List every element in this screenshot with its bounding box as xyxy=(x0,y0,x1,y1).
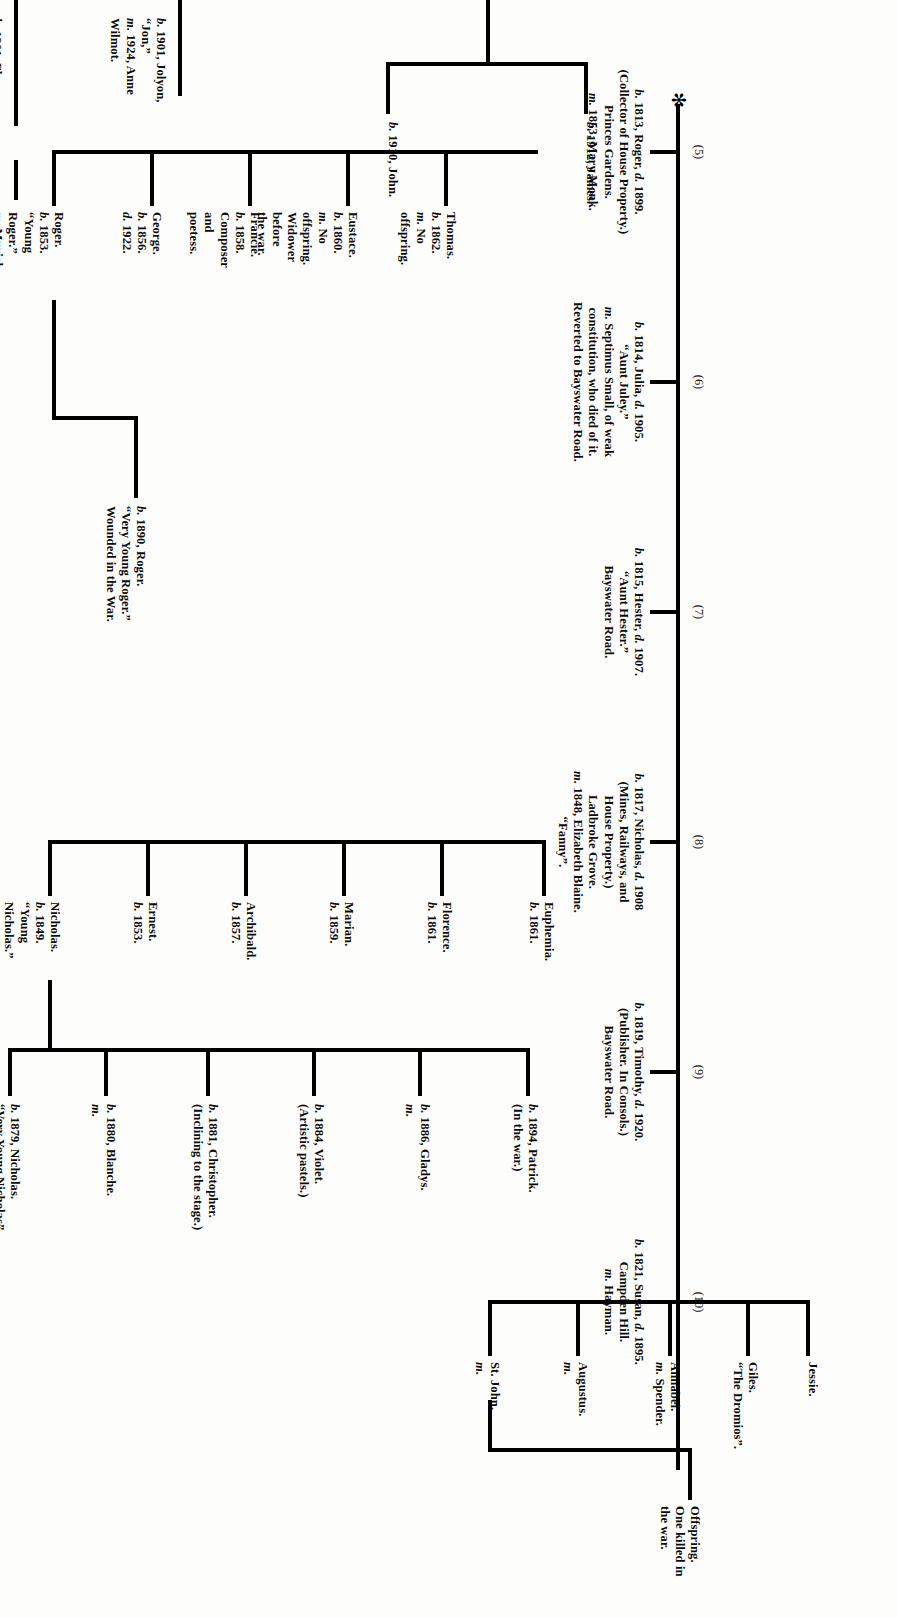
person-roger-young: Roger.b. 1853.“YoungRoger.”m. MurielWake… xyxy=(0,212,66,266)
person-susan-offspring: Offspring.One killed inthe war. xyxy=(656,1506,702,1577)
young-nicholas-sibling-bar xyxy=(8,1048,530,1052)
roger-child-stub-4 xyxy=(346,150,350,206)
john-stub xyxy=(386,62,390,114)
person-john-1910: b. 1910, John. xyxy=(385,122,400,197)
person-julia-6: b. 1814, Julia, d. 1905.“Aunt Juley.”m. … xyxy=(570,302,646,462)
person-hester-7: b. 1815, Hester, d. 1907.“Aunt Hester.”B… xyxy=(600,548,646,676)
person-florence: Florence.b. 1861. xyxy=(424,902,454,953)
st-john-link-h2 xyxy=(688,1448,692,1500)
person-jon-jolyon: b. 1901, Jolyon,“Jon,”m. 1924, AnneWilmo… xyxy=(107,18,168,103)
genealogy-sheet: ✻ (5) (6) (7) (8) (9) (10) b. 1813, Roge… xyxy=(0,0,898,1618)
main-trunk-line xyxy=(676,104,680,1470)
nicholas-child-stub-4 xyxy=(342,840,346,896)
nicholas-child-stub-2 xyxy=(146,840,150,896)
susan-child-stub-2 xyxy=(576,1300,580,1356)
person-eustace: Eustace.b. 1860.m. Nooffspring.Widowerbe… xyxy=(254,212,360,265)
nicholas-child-stub-1 xyxy=(48,840,52,896)
young-roger-link-h2 xyxy=(134,416,138,498)
nicholas-child-stub-6 xyxy=(542,840,546,896)
trunk-start-marker: ✻ xyxy=(669,92,688,108)
roger-child-stub-1 xyxy=(52,150,56,206)
person-jessie: Jessie. xyxy=(805,1362,820,1397)
person-very-young-nicholas: b. 1879, Nicholas.“Very Young Nicholas”(… xyxy=(0,1104,22,1230)
trunk-stub-gen8 xyxy=(650,840,680,844)
rotated-chart-canvas: ✻ (5) (6) (7) (8) (9) (10) b. 1813, Roge… xyxy=(0,0,898,1618)
nicholas-sibling-bar xyxy=(50,840,546,844)
person-fleur: b. 1901, Fleur.m. 1920, Michael Mont. xyxy=(0,18,4,147)
susan-child-stub-4 xyxy=(746,1300,750,1356)
yn-child-stub-5 xyxy=(418,1048,422,1096)
person-augustus: Augustus.m. xyxy=(560,1362,590,1416)
st-john-link-v xyxy=(488,1448,692,1452)
yn-child-stub-6 xyxy=(526,1048,530,1096)
person-francie: Francie.b. 1858.Composerandpoetess. xyxy=(186,212,262,268)
yn-child-stub-2 xyxy=(104,1048,108,1096)
person-giles: Giles.“The Dromios”. xyxy=(730,1362,760,1449)
person-marian: Marian.b. 1859. xyxy=(326,902,356,946)
generation-label-7: (7) xyxy=(691,605,706,619)
young-roger-link-v xyxy=(52,416,138,420)
young-roger-link-h1 xyxy=(52,300,56,420)
person-gladys: b. 1886, Gladys.m. xyxy=(402,1104,432,1191)
offpage-stub-fleur xyxy=(14,0,18,126)
johnjames-feed-line xyxy=(486,0,490,66)
person-st-john: St. John.m. xyxy=(472,1362,502,1410)
young-nicholas-link-h xyxy=(48,980,52,1052)
fleur-kit-link xyxy=(14,160,18,200)
generation-label-9: (9) xyxy=(691,1065,706,1079)
person-george: George.b. 1856.d. 1922. xyxy=(118,212,164,255)
roger-child-stub-3 xyxy=(248,150,252,206)
person-euphemia: Euphemia.b. 1861. xyxy=(526,902,556,961)
person-christopher-1881: b. 1881, Christopher.(Inclining to the s… xyxy=(190,1104,220,1230)
roger-descend-line xyxy=(448,150,538,154)
generation-label-5: (5) xyxy=(691,145,706,159)
person-timothy-9: b. 1819, Timothy, d. 1920.(Publisher. In… xyxy=(600,1003,646,1142)
roger-child-stub-2 xyxy=(150,150,154,206)
person-nicholas-young: Nicholas.b. 1849.“YoungNicholas.”(Insura… xyxy=(0,902,62,970)
susan-child-stub-5 xyxy=(806,1300,810,1356)
person-annabel: Annabel.m. Spender. xyxy=(652,1362,682,1426)
person-blanche: b. 1880, Blanche.m. xyxy=(88,1104,118,1196)
trunk-stub-gen7 xyxy=(650,610,680,614)
susan-child-stub-3 xyxy=(668,1300,672,1356)
person-patrick: b. 1894, Patrick.(In the war.) xyxy=(510,1104,540,1193)
james-stub xyxy=(584,62,588,114)
nicholas-child-stub-3 xyxy=(244,840,248,896)
person-archibald: Archibald.b. 1857. xyxy=(228,902,258,961)
generation-label-8: (8) xyxy=(691,835,706,849)
offpage-stub-jolyon xyxy=(178,0,182,96)
trunk-stub-gen5 xyxy=(650,150,680,154)
nicholas-child-stub-5 xyxy=(440,840,444,896)
person-james-1912: b. 1912, James. xyxy=(583,122,598,204)
yn-child-stub-1 xyxy=(8,1048,12,1096)
johnjames-sibling-bar xyxy=(386,62,588,66)
person-very-young-roger: b. 1890, Roger.“Very Young Roger.”Wounde… xyxy=(102,506,148,622)
trunk-stub-gen6 xyxy=(650,380,680,384)
person-violet: b. 1884, Violet.(Artistic pastels.) xyxy=(296,1104,326,1198)
generation-label-6: (6) xyxy=(691,375,706,389)
person-nicholas-8: b. 1817, Nicholas, d. 1908(Mines, Railwa… xyxy=(555,771,646,913)
roger-child-stub-5 xyxy=(444,150,448,206)
trunk-stub-gen9 xyxy=(650,1070,680,1074)
susan-child-stub-1 xyxy=(488,1300,492,1356)
yn-child-stub-3 xyxy=(206,1048,210,1096)
person-ernest: Ernest.b. 1853. xyxy=(130,902,160,944)
yn-child-stub-4 xyxy=(312,1048,316,1096)
person-thomas: Thomas.b. 1862.m. Nooffspring. xyxy=(397,212,458,265)
st-john-link-h1 xyxy=(488,1400,492,1452)
susan-sibling-bar xyxy=(488,1300,810,1304)
